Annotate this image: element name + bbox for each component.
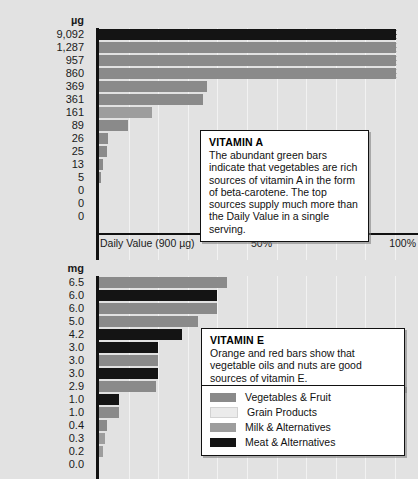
vitamin-e-unit-label: mg [0, 262, 84, 274]
bar [99, 146, 107, 157]
bar-clipped [99, 29, 396, 40]
bar-row: 860 [99, 67, 418, 80]
bar-row: 1,287 [99, 41, 418, 54]
bar-value-label: 3.0 [0, 341, 84, 354]
callout-vitamin-a-heading: VITAMIN A [209, 136, 360, 148]
bar [99, 120, 128, 131]
torn-edge-icon [390, 29, 397, 40]
bar-row: 5.0 [99, 315, 418, 328]
bar-value-label: 3.0 [0, 354, 84, 367]
bar [99, 277, 227, 288]
bar-row: 161 [99, 106, 418, 119]
bar [99, 446, 103, 457]
bar-value-label: 0.3 [0, 432, 84, 445]
bar [99, 159, 103, 170]
bar-value-label: 0.4 [0, 419, 84, 432]
bar-value-label: 957 [0, 54, 84, 67]
legend-item-meat: Meat & Alternatives [210, 435, 396, 450]
bar-value-label: 9,092 [0, 28, 84, 41]
chart-page: µg 9,0921,287957860369361161892625135000… [0, 0, 418, 479]
bar-row: 6.5 [99, 276, 418, 289]
bar-value-label: 161 [0, 106, 84, 119]
bar [99, 107, 152, 118]
bar-value-label: 6.0 [0, 289, 84, 302]
legend-label-milk: Milk & Alternatives [245, 420, 331, 435]
bar [99, 94, 203, 105]
bar-clipped [99, 55, 396, 66]
chart-legend: Vegetables & FruitGrain ProductsMilk & A… [201, 385, 405, 456]
bar-row: 957 [99, 54, 418, 67]
bar-value-label: 0 [0, 184, 84, 197]
bar-row: 6.0 [99, 289, 418, 302]
legend-item-grain: Grain Products [210, 405, 396, 420]
bar-clipped [99, 68, 396, 79]
bar-value-label: 5 [0, 171, 84, 184]
bar [99, 290, 217, 301]
bar-value-label: 2.9 [0, 380, 84, 393]
bar-value-label: 0.2 [0, 445, 84, 458]
bar [99, 172, 101, 183]
bar-row: 6.0 [99, 302, 418, 315]
torn-edge-icon [390, 55, 397, 66]
legend-swatch-grain [210, 407, 238, 418]
bar-row: 361 [99, 93, 418, 106]
bar-value-label: 3.0 [0, 367, 84, 380]
bar-value-label: 4.2 [0, 328, 84, 341]
bar [99, 407, 119, 418]
callout-vitamin-e: VITAMIN E Orange and red bars show that … [201, 328, 405, 391]
torn-edge-icon [390, 42, 397, 53]
torn-edge-icon [390, 68, 397, 79]
bar [99, 433, 105, 444]
bar [99, 355, 158, 366]
bar-value-label: 1.0 [0, 406, 84, 419]
bar-value-label: 1,287 [0, 41, 84, 54]
callout-vitamin-e-heading: VITAMIN E [210, 334, 396, 346]
vitamin-a-unit-label: µg [0, 14, 84, 26]
legend-label-grain: Grain Products [247, 405, 317, 420]
bar [99, 81, 207, 92]
bar-value-label: 6.0 [0, 302, 84, 315]
legend-label-meat: Meat & Alternatives [245, 435, 335, 450]
bar-value-label: 13 [0, 158, 84, 171]
callout-vitamin-a-body: The abundant green bars indicate that ve… [209, 149, 360, 235]
bar [99, 342, 158, 353]
bar-value-label: 5.0 [0, 315, 84, 328]
bar-row: 9,092 [99, 28, 418, 41]
bar-value-label: 1.0 [0, 393, 84, 406]
bar [99, 329, 182, 340]
legend-swatch-milk [210, 423, 236, 432]
legend-swatch-meat [210, 438, 236, 447]
legend-swatch-veg [210, 393, 236, 402]
legend-label-veg: Vegetables & Fruit [245, 390, 331, 405]
bar [99, 381, 156, 392]
bar-value-label: 89 [0, 119, 84, 132]
legend-item-milk: Milk & Alternatives [210, 420, 396, 435]
bar-value-label: 860 [0, 67, 84, 80]
bar-value-label: 361 [0, 93, 84, 106]
callout-vitamin-a: VITAMIN A The abundant green bars indica… [200, 130, 369, 242]
bar-value-label: 6.5 [0, 276, 84, 289]
bar-row: 369 [99, 80, 418, 93]
bar [99, 368, 158, 379]
bar [99, 303, 217, 314]
x-tick-100: 100% [389, 237, 416, 249]
bar-value-label: 369 [0, 80, 84, 93]
bar-value-label: 26 [0, 132, 84, 145]
x-tick-daily-value: Daily Value (900 µg) [100, 237, 195, 249]
bar-value-label: 0.0 [0, 458, 84, 471]
bar-value-label: 25 [0, 145, 84, 158]
bar-row: 0.0 [99, 458, 418, 471]
bar-value-label: 0 [0, 197, 84, 210]
legend-item-veg: Vegetables & Fruit [210, 390, 396, 405]
bar-value-label: 0 [0, 210, 84, 223]
bar [99, 316, 198, 327]
bar [99, 394, 119, 405]
bar-clipped [99, 42, 396, 53]
bar [99, 133, 108, 144]
bar [99, 420, 107, 431]
callout-vitamin-e-body: Orange and red bars show that vegetable … [210, 347, 396, 384]
